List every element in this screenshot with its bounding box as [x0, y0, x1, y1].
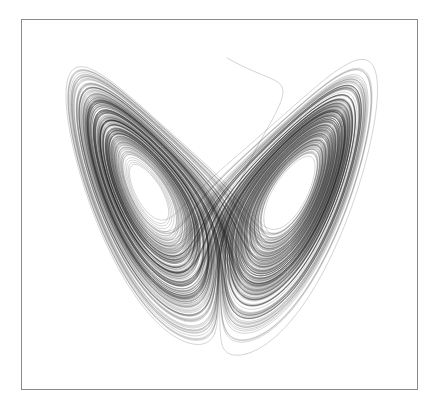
figure-root — [0, 0, 438, 406]
plot-frame — [21, 19, 418, 390]
lorenz-attractor-plot — [22, 20, 417, 389]
